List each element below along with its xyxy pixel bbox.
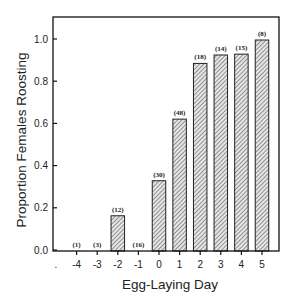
- bar: [235, 54, 249, 251]
- x-tick-label: -1: [134, 259, 143, 270]
- x-tick-label: 5: [259, 259, 265, 270]
- x-tick-label: 1: [177, 259, 183, 270]
- x-tick-label: -4: [72, 259, 81, 270]
- bar: [173, 119, 187, 251]
- y-tick-label: 0.0: [34, 245, 48, 256]
- x-tick-label: -3: [93, 259, 102, 270]
- bar-chart: (1)(3)(12)(16)(30)(48)(18)(14)(15)(8) 0.…: [0, 0, 295, 305]
- x-tick-label: 0: [156, 259, 162, 270]
- sample-size-label: (8): [258, 30, 267, 38]
- y-tick-label: 0.8: [34, 76, 48, 87]
- sample-size-label: (48): [174, 109, 186, 117]
- x-tick-label-extra: .: [55, 259, 58, 270]
- bar: [193, 63, 207, 251]
- y-tick-label: 0.4: [34, 160, 48, 171]
- x-tick-label: 3: [218, 259, 224, 270]
- y-axis-title: Proportion Females Roosting: [14, 53, 29, 228]
- y-tick-label: 1.0: [34, 34, 48, 45]
- bar: [214, 55, 228, 251]
- bar: [152, 181, 166, 251]
- x-axis: .-4-3-2-1012345: [55, 251, 266, 270]
- x-tick-label: -2: [113, 259, 122, 270]
- y-tick-label: 0.6: [34, 118, 48, 129]
- sample-size-label: (12): [112, 206, 124, 214]
- x-tick-label: 4: [239, 259, 245, 270]
- sample-size-label: (30): [153, 171, 165, 179]
- y-tick-label: 0.2: [34, 202, 48, 213]
- sample-size-label: (16): [133, 241, 145, 249]
- sample-size-label: (14): [215, 45, 227, 53]
- bar: [255, 40, 269, 251]
- bars-group: (1)(3)(12)(16)(30)(48)(18)(14)(15)(8): [73, 30, 269, 251]
- x-tick-label: 2: [197, 259, 203, 270]
- x-axis-title: Egg-Laying Day: [122, 277, 218, 292]
- sample-size-label: (18): [194, 53, 206, 61]
- sample-size-label: (3): [93, 241, 102, 249]
- sample-size-label: (15): [236, 44, 248, 52]
- sample-size-label: (1): [73, 241, 82, 249]
- bar: [111, 216, 125, 251]
